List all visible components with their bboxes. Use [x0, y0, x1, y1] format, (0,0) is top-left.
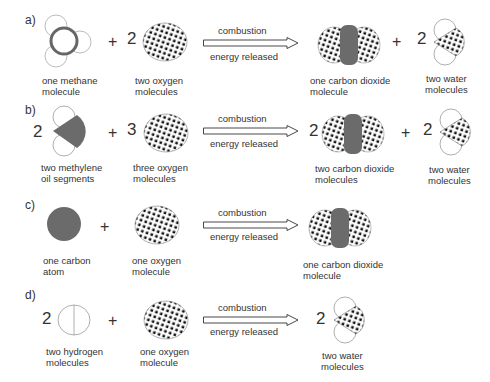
water-caption: two water molecules	[425, 73, 468, 95]
water-coefficient: 2	[316, 309, 325, 329]
oxygen-molecule-icon	[143, 300, 189, 340]
reaction-d-label: d)	[25, 288, 36, 302]
reaction-arrow-icon	[203, 125, 299, 137]
water-molecule-icon	[436, 108, 481, 158]
methylene-coefficient: 2	[33, 122, 42, 142]
arrow-bottom-label: energy released	[210, 138, 278, 149]
carbon-atom-icon	[46, 206, 82, 242]
reaction-arrow-icon	[203, 219, 299, 231]
carbon-caption: one carbon atom	[43, 255, 91, 277]
oxygen-coefficient: 3	[127, 120, 136, 140]
reaction-arrow-icon	[203, 37, 299, 49]
arrow-bottom-label: energy released	[210, 231, 278, 242]
oxygen-molecule-icon	[143, 113, 189, 153]
water-coefficient: 2	[423, 120, 432, 140]
oxygen-caption: two oxygen molecules	[135, 75, 183, 97]
water-coefficient: 2	[417, 29, 426, 49]
water-caption: two water molecules	[321, 350, 364, 372]
methylene-caption: two methylene oil segments	[41, 162, 102, 184]
oxygen-caption: one oxygen molecule	[132, 255, 181, 277]
reaction-a-label: a)	[25, 13, 36, 27]
arrow-top-label: combustion	[218, 25, 267, 36]
methane-molecule-icon	[42, 16, 92, 64]
co2-caption: one carbon dioxide molecule	[303, 259, 383, 281]
water-molecule-icon	[330, 296, 375, 346]
arrow-top-label: combustion	[218, 207, 267, 218]
oxygen-caption: one oxygen molecule	[140, 346, 189, 368]
hydrogen-molecule-icon	[56, 303, 92, 337]
oxygen-molecule-icon	[134, 205, 180, 245]
reaction-arrow-icon	[203, 314, 299, 326]
carbon-dioxide-molecule-icon	[318, 25, 380, 65]
hydrogen-coefficient: 2	[42, 309, 51, 329]
oxygen-molecule-icon	[142, 22, 188, 62]
hydrogen-caption: two hydrogen molecules	[46, 346, 103, 368]
arrow-bottom-label: energy released	[210, 326, 278, 337]
carbon-dioxide-molecule-icon	[322, 114, 384, 154]
reaction-b-label: b)	[25, 103, 36, 117]
oxygen-caption: three oxygen molecules	[133, 162, 188, 184]
methylene-segment-icon	[50, 105, 90, 157]
plus-sign: +	[108, 124, 117, 142]
plus-sign: +	[108, 33, 117, 51]
plus-sign: +	[401, 124, 410, 142]
water-molecule-icon	[430, 18, 475, 68]
plus-sign: +	[100, 218, 109, 236]
co2-caption: two carbon dioxide molecules	[315, 163, 394, 185]
co2-coefficient: 2	[309, 121, 318, 141]
arrow-top-label: combustion	[218, 113, 267, 124]
water-caption: two water molecules	[428, 164, 471, 186]
co2-caption: one carbon dioxide molecule	[310, 75, 390, 97]
arrow-top-label: combustion	[218, 302, 267, 313]
plus-sign: +	[392, 33, 401, 51]
reaction-c-label: c)	[25, 198, 35, 212]
arrow-bottom-label: energy released	[210, 51, 278, 62]
plus-sign: +	[108, 312, 117, 330]
carbon-dioxide-molecule-icon	[309, 208, 371, 248]
methane-caption: one methane molecule	[42, 75, 97, 97]
oxygen-coefficient: 2	[127, 29, 136, 49]
